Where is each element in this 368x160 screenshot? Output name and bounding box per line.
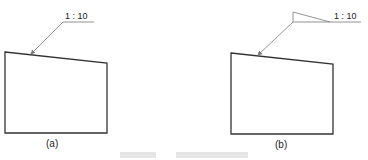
- slope-triangle-icon: [293, 12, 330, 22]
- diagram-canvas: 1 : 10 (a) 1 : 10 (b): [0, 0, 368, 160]
- panel-a: 1 : 10 (a): [5, 11, 107, 149]
- panel-b: 1 : 10 (b): [231, 11, 361, 150]
- leader-line-a: [31, 22, 63, 54]
- leader-line-b: [258, 22, 293, 55]
- slanted-block-a: [5, 52, 107, 133]
- scale-label-b: 1 : 10: [334, 11, 357, 21]
- figure-caption-placeholder: [120, 152, 156, 158]
- figure-caption-placeholder: [176, 152, 248, 158]
- panel-label-b: (b): [275, 139, 287, 150]
- panel-label-a: (a): [46, 138, 58, 149]
- scale-label-a: 1 : 10: [65, 11, 88, 21]
- slanted-block-b: [231, 53, 333, 134]
